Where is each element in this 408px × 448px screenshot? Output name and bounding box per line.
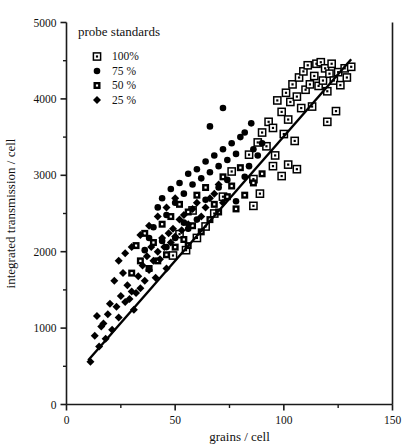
marker-center-dot — [289, 101, 291, 103]
data-point — [224, 157, 231, 164]
marker-center-dot — [287, 118, 289, 120]
marker-diamond-filled — [115, 313, 123, 321]
data-point — [211, 201, 218, 208]
marker-center-dot — [178, 233, 180, 235]
marker-diamond-filled — [117, 292, 125, 300]
legend-label: 50 % — [112, 79, 136, 91]
legend-marker-75 — [94, 68, 101, 75]
marker-center-dot — [291, 83, 293, 85]
data-point — [311, 72, 318, 79]
data-point — [348, 63, 355, 70]
data-point — [278, 108, 285, 115]
marker-center-dot — [326, 121, 328, 123]
data-point — [211, 152, 218, 159]
marker-circle-filled — [248, 120, 255, 127]
marker-circle-filled — [159, 195, 166, 202]
marker-center-dot — [326, 90, 328, 92]
data-point — [219, 173, 226, 180]
marker-diamond-filled — [91, 332, 99, 340]
data-point — [220, 146, 227, 153]
marker-center-dot — [96, 84, 98, 86]
marker-center-dot — [320, 61, 322, 63]
data-point — [154, 213, 162, 221]
y-tick-label: 0 — [51, 399, 57, 411]
data-point — [128, 270, 135, 277]
data-point — [304, 62, 311, 69]
data-point — [228, 182, 235, 189]
x-tick-label: 50 — [169, 414, 181, 426]
marker-center-dot — [322, 79, 324, 81]
marker-center-dot — [226, 196, 228, 198]
marker-center-dot — [298, 76, 300, 78]
marker-center-dot — [139, 260, 141, 262]
marker-circle-filled — [215, 163, 222, 170]
data-point — [282, 89, 289, 96]
data-point — [104, 310, 112, 318]
marker-diamond-filled — [104, 310, 112, 318]
data-point — [163, 251, 170, 258]
legend-label: 100% — [112, 50, 139, 62]
marker-center-dot — [296, 96, 298, 98]
data-point — [154, 204, 161, 211]
marker-circle-filled — [233, 198, 240, 205]
data-point — [272, 152, 279, 159]
marker-center-dot — [350, 66, 352, 68]
marker-center-dot — [144, 232, 146, 234]
marker-center-dot — [346, 76, 348, 78]
data-point — [241, 192, 248, 199]
data-point — [117, 292, 125, 300]
data-point — [115, 257, 123, 265]
marker-center-dot — [318, 85, 320, 87]
data-point — [176, 180, 183, 187]
data-point — [343, 74, 350, 81]
marker-circle-filled — [220, 146, 227, 153]
data-point — [259, 170, 266, 177]
marker-circle-filled — [207, 169, 214, 176]
data-point — [194, 166, 201, 173]
marker-center-dot — [252, 182, 254, 184]
marker-center-dot — [170, 215, 172, 217]
data-point — [91, 332, 99, 340]
data-point — [141, 277, 149, 285]
marker-center-dot — [285, 92, 287, 94]
marker-circle-filled — [224, 157, 231, 164]
marker-center-dot — [131, 272, 133, 274]
data-point — [328, 60, 335, 67]
marker-center-dot — [183, 238, 185, 240]
marker-diamond-filled — [110, 277, 118, 285]
y-tick-label: 4000 — [34, 93, 57, 105]
data-point — [154, 248, 162, 256]
marker-center-dot — [272, 127, 274, 129]
y-tick-label: 5000 — [34, 17, 57, 29]
marker-diamond-filled — [141, 277, 149, 285]
marker-diamond-filled — [193, 199, 201, 207]
marker-center-dot — [294, 140, 296, 142]
data-point — [115, 313, 123, 321]
marker-circle-filled — [220, 105, 227, 112]
data-point — [176, 201, 183, 208]
marker-center-dot — [204, 186, 206, 188]
data-point — [233, 151, 240, 158]
data-point — [110, 277, 118, 285]
data-point — [248, 120, 255, 127]
marker-center-dot — [296, 168, 298, 170]
data-point — [289, 81, 296, 88]
y-tick-label: 1000 — [34, 322, 57, 334]
data-point — [332, 108, 339, 115]
marker-diamond-filled — [115, 257, 123, 265]
marker-center-dot — [196, 194, 198, 196]
data-point — [256, 190, 263, 197]
data-point — [220, 105, 227, 112]
legend-marker-50 — [94, 82, 101, 89]
legend-layer: probe standards100%75 %50 %25 % — [78, 24, 160, 106]
marker-center-dot — [231, 170, 233, 172]
marker-circle-filled — [211, 152, 218, 159]
data-point — [337, 82, 344, 89]
data-point — [134, 272, 142, 280]
data-point — [215, 163, 222, 170]
data-point — [202, 203, 210, 211]
marker-circle-filled — [246, 163, 253, 170]
data-point — [169, 252, 176, 259]
data-point — [159, 195, 166, 202]
data-point — [326, 70, 333, 77]
